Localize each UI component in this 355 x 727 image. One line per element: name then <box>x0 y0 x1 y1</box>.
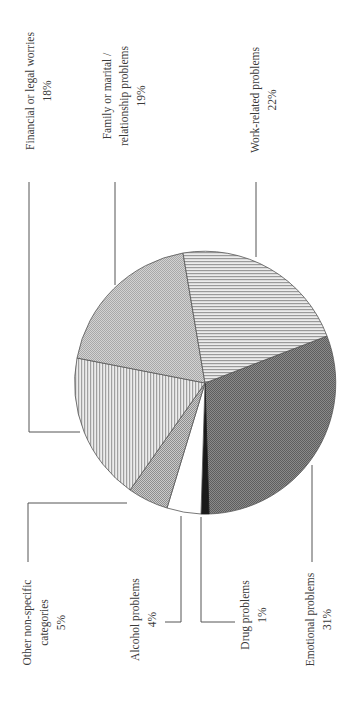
label-work-text: Work-related problems <box>247 30 264 170</box>
label-other-text-1: Other non-specific <box>19 565 36 680</box>
label-alcohol: Alcohol problems 4% <box>127 567 161 672</box>
label-other-pct: 5% <box>53 565 70 680</box>
label-emotional-pct: 31% <box>319 557 336 682</box>
leader-other <box>28 503 127 562</box>
label-financial: Financial or legal worries 18% <box>22 6 56 176</box>
label-family-pct: 19% <box>133 26 150 166</box>
label-work-pct: 22% <box>264 30 281 170</box>
label-emotional-text: Emotional problems <box>302 557 319 682</box>
leader-financial <box>29 182 80 432</box>
label-other: Other non-specific categories 5% <box>19 565 70 680</box>
label-alcohol-pct: 4% <box>144 567 161 672</box>
label-family-text-1: Family or marital / <box>99 26 116 166</box>
leader-drug <box>201 517 235 622</box>
label-work: Work-related problems 22% <box>247 30 281 170</box>
pie-slices <box>75 251 336 514</box>
label-financial-pct: 18% <box>39 6 56 176</box>
label-family: Family or marital / relationship problem… <box>99 26 150 166</box>
label-financial-text: Financial or legal worries <box>22 6 39 176</box>
label-drug-pct: 1% <box>254 565 271 665</box>
label-emotional: Emotional problems 31% <box>302 557 336 682</box>
leader-alcohol <box>165 516 181 622</box>
label-drug-text: Drug problems <box>237 565 254 665</box>
label-family-text-2: relationship problems <box>116 26 133 166</box>
label-alcohol-text: Alcohol problems <box>127 567 144 672</box>
label-drug: Drug problems 1% <box>237 565 271 665</box>
label-other-text-2: categories <box>36 565 53 680</box>
